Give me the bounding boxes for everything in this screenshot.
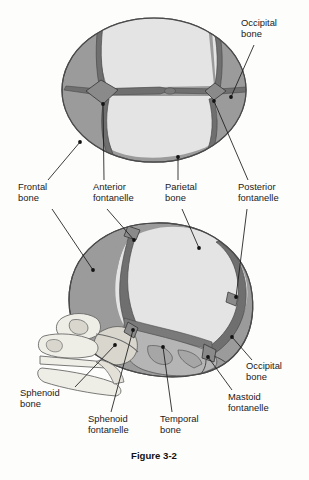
label-mastoid-fontanelle-line1: Mastoid [228,391,261,402]
label-frontal-bone-line1: Frontal [18,181,47,192]
superior-sagittal-node [165,88,176,94]
label-occipital-bone-top-line2: bone [241,28,262,39]
label-posterior-fontanelle-line1: Posterior [238,181,276,192]
fetal-skull-figure: Occipital bone Frontal bone Anterior fon… [0,0,309,480]
label-mastoid-fontanelle-line2: fontanelle [228,402,269,413]
label-sphenoid-fontanelle-line2: fontanelle [88,424,129,435]
leader-line-frontal [48,142,80,180]
superior-view-skull [62,15,246,162]
label-temporal-bone-line2: bone [160,424,181,435]
label-occipital-bone-bottom-line1: Occipital [246,360,282,371]
label-occipital-bone-top-line1: Occipital [241,17,277,28]
label-anterior-fontanelle-line1: Anterior [93,181,126,192]
label-sphenoid-bone-line1: Sphenoid [20,387,60,398]
leader-dot-anterior-fontanelle-lateral [132,238,136,242]
figure-page: Occipital bone Frontal bone Anterior fon… [0,0,309,480]
label-parietal-bone-line2: bone [165,192,186,203]
label-posterior-fontanelle-line2: fontanelle [238,192,279,203]
label-occipital-bone-bottom-line2: bone [246,371,267,382]
label-parietal-bone-line1: Parietal [165,181,197,192]
label-sphenoid-fontanelle-line1: Sphenoid [88,413,128,424]
label-frontal-bone-line2: bone [18,192,39,203]
leader-dot-parietal-lateral [197,246,201,250]
label-temporal-bone-line1: Temporal [160,413,199,424]
leader-line-frontal-lateral [52,209,93,270]
label-sphenoid-bone-line2: bone [20,398,41,409]
figure-caption: Figure 3-2 [131,450,177,461]
leader-dot-frontal-lateral [91,268,95,272]
label-anterior-fontanelle-line2: fontanelle [93,192,134,203]
facial-nasal-aperture [46,339,62,351]
leader-dot-posterior-fontanelle-lateral [234,295,238,299]
lateral-view-skull [38,223,253,396]
superior-parietal-lower-left [104,96,214,158]
